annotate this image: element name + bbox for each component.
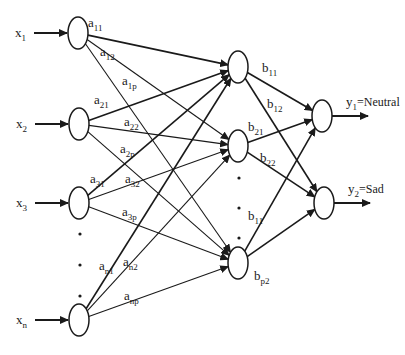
ellipsis-dot [78,294,81,297]
hidden-node-h2 [228,130,248,162]
weight-label-a3p: a3p [122,204,137,222]
weight-label-an1: an1 [99,258,114,276]
output-node-y2 [314,187,334,219]
weight-label-b22: b22 [260,150,276,168]
labels: x1x2x3xny1=Neutraly2=Sada11a12a1pa21a22a… [15,15,400,330]
connection-h2-y2 [247,152,315,197]
hidden-node-h1 [228,51,248,83]
output-node-y1 [312,100,332,132]
ellipsis-dot [237,236,240,239]
output-label-y1: y1=Neutral [346,94,400,112]
weight-label-b11: b11 [248,208,263,226]
ellipsis-dot [237,176,240,179]
weight-label-a2p: a2p [120,141,135,159]
weight-label-b11: b11 [262,60,277,78]
network-svg: x1x2x3xny1=Neutraly2=Sada11a12a1pa21a22a… [0,0,405,355]
weight-label-bp2: bp2 [254,268,270,286]
weight-label-a11: a11 [88,15,102,33]
input-node-x2 [69,108,89,140]
ellipsis-dot [78,232,81,235]
ellipsis-dot [237,206,240,209]
weight-label-b12: b12 [267,96,283,114]
weight-label-a32: a32 [125,171,140,189]
connections [34,33,370,320]
input-label-x2: x2 [16,116,27,134]
hidden-node-hp [228,247,248,279]
neural-network-diagram: x1x2x3xny1=Neutraly2=Sada11a12a1pa21a22a… [0,0,405,355]
output-label-y2: y2=Sad [348,181,384,199]
weight-label-a12: a12 [100,44,115,62]
input-node-x3 [69,187,89,219]
weight-label-a21: a21 [94,92,109,110]
input-label-x3: x3 [16,195,28,213]
weight-label-a31: a31 [90,171,105,189]
ellipsis-dot [78,263,81,266]
input-label-x1: x1 [15,25,26,43]
input-node-xn [69,304,89,336]
input-label-xn: xn [16,312,28,330]
connection-x3-h1 [88,75,229,196]
input-node-x1 [68,17,88,49]
weight-label-b21: b21 [248,119,264,137]
weight-label-a1p: a1p [122,73,137,91]
